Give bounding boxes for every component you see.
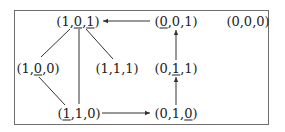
- node-label-part: ): [95, 14, 100, 29]
- node-label-part: (0,1,: [154, 106, 184, 121]
- node-label-part: 1: [86, 14, 94, 29]
- node-label-part: ,1): [180, 61, 197, 76]
- node-n011: (0,1,1): [154, 62, 197, 75]
- edge-101-100: [41, 29, 70, 57]
- node-label-part: 0: [184, 106, 192, 121]
- node-label-part: 1: [172, 61, 180, 76]
- node-label-part: ,0): [42, 61, 59, 76]
- node-n111: (1,1,1): [95, 62, 138, 75]
- node-label-part: 0: [74, 14, 82, 29]
- node-n010: (0,1,0): [154, 107, 197, 120]
- node-n100: (1,0,0): [16, 62, 59, 75]
- edge-101-111: [86, 29, 113, 59]
- node-n001: (0,0,1): [154, 15, 197, 28]
- node-n000: (0,0,0): [226, 15, 269, 28]
- node-n110: (1,1,0): [57, 107, 100, 120]
- node-label-part: (1,: [56, 14, 73, 29]
- node-label-part: (0,0,0): [226, 14, 269, 29]
- node-label-part: ): [193, 106, 198, 121]
- node-label-part: (1,1,1): [95, 61, 138, 76]
- node-label-part: (1,: [16, 61, 33, 76]
- node-n101: (1,0,1): [56, 15, 99, 28]
- node-label-part: (0,: [154, 61, 171, 76]
- edge-100-110: [39, 77, 65, 105]
- node-label-part: ,1,0): [71, 106, 101, 121]
- node-label-part: ,0,1): [168, 14, 198, 29]
- node-label-part: 0: [34, 61, 42, 76]
